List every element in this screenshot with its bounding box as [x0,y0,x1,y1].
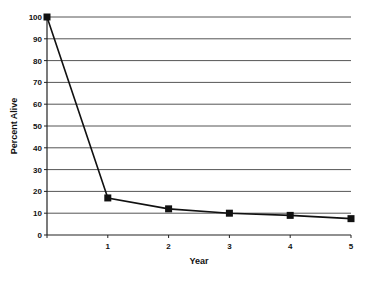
x-tick-label: 1 [106,242,111,251]
axes [44,17,351,238]
x-axis-tick-labels: 12345 [106,242,354,251]
y-tick-label: 40 [33,144,42,153]
y-tick-label: 60 [33,100,42,109]
y-tick-label: 10 [33,209,42,218]
x-tick-label: 4 [288,242,293,251]
x-tick-label: 2 [166,242,171,251]
y-tick-label: 80 [33,57,42,66]
square-marker [104,194,111,201]
data-series [44,14,355,223]
y-axis-title: Percent Alive [9,98,19,155]
y-tick-label: 100 [29,13,43,22]
line-chart: 0102030405060708090100 12345 Year Percen… [0,0,370,291]
square-marker [226,210,233,217]
x-axis-title: Year [189,256,209,266]
square-marker [44,14,51,21]
x-tick-label: 5 [349,242,354,251]
x-tick-label: 3 [227,242,232,251]
y-tick-label: 20 [33,187,42,196]
y-tick-label: 30 [33,166,42,175]
y-tick-label: 70 [33,78,42,87]
y-tick-label: 90 [33,35,42,44]
square-marker [165,205,172,212]
y-tick-label: 50 [33,122,42,131]
gridlines [47,17,351,213]
square-marker [348,215,355,222]
y-tick-label: 0 [38,231,43,240]
series-line [47,17,351,219]
square-marker [287,212,294,219]
y-axis-tick-labels: 0102030405060708090100 [29,13,43,240]
